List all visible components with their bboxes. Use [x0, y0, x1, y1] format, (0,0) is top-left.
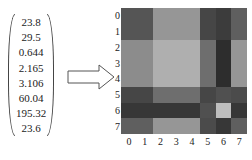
y-tick: 5 — [110, 87, 120, 103]
heatmap-cell — [121, 55, 137, 71]
heatmap-cell — [137, 87, 153, 103]
heatmap-cell — [231, 55, 247, 71]
vector-value: 0.644 — [19, 45, 44, 60]
heatmap-cell — [216, 103, 232, 119]
right-parenthesis — [47, 14, 54, 136]
heatmap-cell — [137, 40, 153, 56]
x-tick: 5 — [200, 136, 216, 147]
heatmap-cell — [137, 55, 153, 71]
heatmap-cell — [184, 24, 200, 40]
heatmap-y-axis: 0 1 2 3 4 5 6 7 — [110, 8, 120, 134]
x-tick: 0 — [121, 136, 137, 147]
vector-value: 2.165 — [19, 61, 44, 76]
heatmap-cell — [153, 8, 169, 24]
vector-value: 3.106 — [19, 76, 44, 91]
heatmap-cell — [200, 8, 216, 24]
heatmap-cell — [153, 24, 169, 40]
y-tick: 2 — [110, 40, 120, 56]
heatmap-cell — [216, 118, 232, 134]
heatmap-cell — [184, 103, 200, 119]
vector-value: 23.6 — [21, 121, 40, 136]
heatmap-cell — [184, 40, 200, 56]
heatmap-cell — [231, 24, 247, 40]
y-tick: 3 — [110, 55, 120, 71]
heatmap-cell — [216, 40, 232, 56]
heatmap-cell — [153, 55, 169, 71]
heatmap-cell — [121, 8, 137, 24]
heatmap-cell — [137, 24, 153, 40]
heatmap-cell — [216, 87, 232, 103]
heatmap-cell — [231, 8, 247, 24]
heatmap-cell — [184, 87, 200, 103]
x-tick: 1 — [137, 136, 153, 147]
x-tick: 3 — [168, 136, 184, 147]
heatmap-cell — [153, 71, 169, 87]
heatmap-cell — [168, 103, 184, 119]
heatmap-x-axis: 0 1 2 3 4 5 6 7 — [121, 136, 247, 147]
heatmap-grid — [121, 8, 247, 134]
heatmap-cell — [121, 118, 137, 134]
heatmap-cell — [200, 71, 216, 87]
x-tick: 2 — [153, 136, 169, 147]
heatmap-cell — [121, 87, 137, 103]
heatmap-cell — [137, 103, 153, 119]
right-arrow-icon — [67, 64, 115, 90]
heatmap-cell — [137, 71, 153, 87]
y-tick: 0 — [110, 8, 120, 24]
heatmap-cell — [168, 118, 184, 134]
heatmap-cell — [231, 71, 247, 87]
heatmap-cell — [168, 8, 184, 24]
vector-value: 23.8 — [21, 15, 40, 30]
heatmap-cell — [200, 118, 216, 134]
heatmap-cell — [121, 24, 137, 40]
heatmap-cell — [137, 8, 153, 24]
y-tick: 4 — [110, 71, 120, 87]
heatmap-cell — [153, 40, 169, 56]
heatmap-cell — [168, 87, 184, 103]
heatmap-cell — [153, 118, 169, 134]
heatmap-cell — [184, 55, 200, 71]
heatmap-cell — [121, 103, 137, 119]
y-tick: 1 — [110, 24, 120, 40]
vector-values: 23.8 29.5 0.644 2.165 3.106 60.04 195.32… — [14, 15, 48, 137]
heatmap-cell — [153, 87, 169, 103]
heatmap-cell — [200, 24, 216, 40]
heatmap-cell — [216, 55, 232, 71]
x-tick: 4 — [184, 136, 200, 147]
heatmap-cell — [231, 118, 247, 134]
heatmap-cell — [216, 8, 232, 24]
heatmap-cell — [184, 71, 200, 87]
heatmap-cell — [231, 103, 247, 119]
heatmap-cell — [121, 40, 137, 56]
heatmap-cell — [168, 71, 184, 87]
heatmap-cell — [121, 71, 137, 87]
vector-value: 60.04 — [19, 91, 44, 106]
heatmap-cell — [216, 24, 232, 40]
x-tick: 7 — [231, 136, 247, 147]
vector-value: 195.32 — [16, 106, 46, 121]
heatmap-cell — [168, 24, 184, 40]
heatmap-cell — [200, 40, 216, 56]
heatmap-cell — [184, 118, 200, 134]
y-tick: 7 — [110, 118, 120, 134]
heatmap-cell — [184, 8, 200, 24]
heatmap-cell — [216, 71, 232, 87]
y-tick: 6 — [110, 103, 120, 119]
heatmap-cell — [168, 55, 184, 71]
heatmap-cell — [200, 103, 216, 119]
heatmap-cell — [231, 40, 247, 56]
heatmap-cell — [153, 103, 169, 119]
heatmap-cell — [137, 118, 153, 134]
heatmap-cell — [200, 55, 216, 71]
input-vector: 23.8 29.5 0.644 2.165 3.106 60.04 195.32… — [8, 14, 54, 136]
heatmap-cell — [200, 87, 216, 103]
x-tick: 6 — [216, 136, 232, 147]
heatmap-cell — [231, 87, 247, 103]
heatmap-cell — [168, 40, 184, 56]
vector-value: 29.5 — [21, 30, 40, 45]
